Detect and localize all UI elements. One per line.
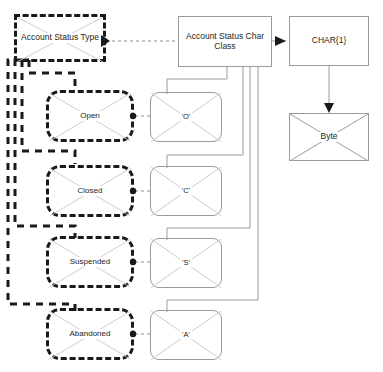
- node-suspended[interactable]: Suspended: [46, 236, 134, 288]
- node-label-account-status-type: Account Status Type: [19, 33, 101, 43]
- node-closed-char[interactable]: 'C': [150, 166, 222, 216]
- node-abandoned-char[interactable]: 'A': [150, 310, 222, 360]
- wire-charclass-to-open-char: [167, 67, 227, 94]
- diagram-canvas: Account Status Type Account Status Char …: [0, 0, 383, 372]
- node-closed[interactable]: Closed: [46, 165, 134, 217]
- node-suspended-char[interactable]: 'S': [150, 238, 222, 288]
- node-open[interactable]: Open: [46, 90, 134, 142]
- node-open-char[interactable]: 'O': [150, 92, 222, 142]
- wire-type-to-open: [29, 60, 75, 86]
- node-label-open: Open: [78, 111, 102, 120]
- node-char-type[interactable]: CHAR{1}: [289, 16, 369, 66]
- node-account-status-char-class[interactable]: Account Status Char Class: [178, 16, 272, 67]
- node-label-closed-char: 'C': [180, 187, 192, 196]
- node-account-status-type[interactable]: Account Status Type: [14, 14, 106, 62]
- node-abandoned[interactable]: Abandoned: [46, 308, 134, 360]
- node-byte[interactable]: Byte: [289, 113, 369, 161]
- node-label-suspended: Suspended: [68, 257, 112, 266]
- node-label-abandoned-char: 'A': [180, 331, 192, 340]
- node-label-account-status-char-class: Account Status Char Class: [179, 32, 271, 52]
- node-label-char-type: CHAR{1}: [310, 36, 349, 46]
- arrowhead-char-to-byte: [324, 103, 334, 113]
- node-label-closed: Closed: [76, 186, 105, 195]
- node-label-byte: Byte: [318, 132, 339, 142]
- arrowhead-charclass-to-char: [275, 36, 286, 46]
- node-label-suspended-char: 'S': [180, 259, 192, 268]
- node-label-abandoned: Abandoned: [68, 329, 113, 338]
- node-label-open-char: 'O': [180, 113, 193, 122]
